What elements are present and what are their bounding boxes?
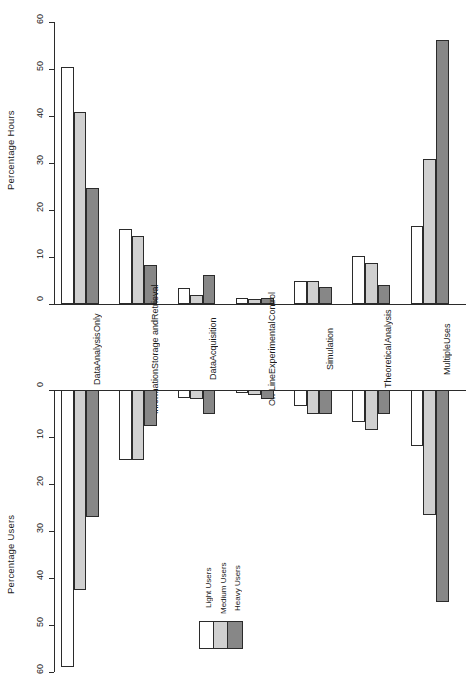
legend-swatch bbox=[214, 622, 228, 648]
bar bbox=[423, 159, 436, 304]
category-label-line: Control bbox=[266, 292, 277, 321]
category-label: MultipleUses bbox=[408, 312, 452, 386]
category-label-line: Data bbox=[208, 361, 219, 380]
y-axis-tick bbox=[49, 390, 54, 391]
bar bbox=[144, 390, 157, 426]
category-axis-baseline bbox=[54, 304, 466, 305]
category-label-line: Only bbox=[91, 313, 102, 332]
y-axis-tick-label: 60 bbox=[36, 14, 50, 24]
bar bbox=[132, 390, 145, 460]
y-axis-tick-label: 0 bbox=[36, 382, 50, 387]
bar bbox=[132, 236, 145, 304]
bar bbox=[307, 390, 320, 414]
bar bbox=[86, 188, 99, 304]
y-axis-tick-label: 50 bbox=[36, 61, 50, 71]
bar bbox=[319, 390, 332, 414]
y-axis-tick-label: 40 bbox=[36, 570, 50, 580]
y-axis-tick-label: 0 bbox=[36, 296, 50, 301]
bar bbox=[307, 281, 320, 304]
bar bbox=[74, 390, 87, 590]
y-axis-tick bbox=[49, 304, 54, 305]
y-axis-tick-label: 40 bbox=[36, 108, 50, 118]
bar bbox=[423, 390, 436, 515]
bar bbox=[248, 299, 261, 304]
bar bbox=[119, 229, 132, 304]
category-label-line: Retrieval bbox=[150, 284, 161, 320]
bar bbox=[236, 390, 249, 393]
category-label: InformationStorage andRetrieval bbox=[116, 312, 160, 386]
bar bbox=[411, 390, 424, 446]
bar bbox=[294, 281, 307, 304]
legend: Light UsersMedium UsersHeavy Users bbox=[195, 555, 295, 675]
bar bbox=[378, 285, 391, 304]
legend-label: Medium Users bbox=[214, 559, 228, 617]
bar bbox=[248, 390, 261, 395]
bar bbox=[74, 112, 87, 304]
category-label-line: Analysis bbox=[383, 310, 394, 344]
value-axis-spine bbox=[54, 22, 55, 304]
y-axis-tick-label: 60 bbox=[36, 664, 50, 674]
category-label-line: Theoretical bbox=[383, 343, 394, 388]
y-axis-tick-label: 30 bbox=[36, 523, 50, 533]
y-axis-tick-label: 50 bbox=[36, 617, 50, 627]
category-label: TheoreticalAnalysis bbox=[349, 312, 393, 386]
bar bbox=[365, 263, 378, 304]
bar bbox=[61, 390, 74, 667]
y-axis-title-users: Percentage Users bbox=[6, 470, 16, 594]
legend-swatch bbox=[200, 622, 214, 648]
y-axis-tick-label: 20 bbox=[36, 476, 50, 486]
y-axis-tick-label: 10 bbox=[36, 429, 50, 439]
bar bbox=[352, 256, 365, 304]
bar bbox=[178, 288, 191, 304]
y-axis-tick-label: 20 bbox=[36, 202, 50, 212]
category-label: DataAnalysisOnly bbox=[58, 312, 102, 386]
legend-label: Light Users bbox=[199, 559, 213, 617]
legend-swatch bbox=[228, 622, 242, 648]
category-label-line: Data bbox=[91, 366, 102, 385]
bar bbox=[203, 390, 216, 414]
bar bbox=[436, 390, 449, 602]
bar bbox=[261, 390, 274, 399]
category-label-line: Analysis bbox=[91, 332, 102, 366]
bar bbox=[319, 287, 332, 304]
category-label: On-LineExperimentalControl bbox=[233, 312, 277, 386]
bar bbox=[294, 390, 307, 406]
legend-swatch-box bbox=[199, 621, 243, 649]
y-axis-title-hours: Percentage Hours bbox=[6, 70, 16, 190]
bar bbox=[178, 390, 191, 398]
bar bbox=[411, 226, 424, 304]
legend-label: Heavy Users bbox=[228, 559, 242, 617]
y-axis-tick-label: 10 bbox=[36, 249, 50, 259]
bar bbox=[352, 390, 365, 422]
bar bbox=[436, 40, 449, 304]
category-label-line: Experimental bbox=[266, 321, 277, 374]
category-label-line: Uses bbox=[441, 323, 452, 344]
bar bbox=[86, 390, 99, 517]
category-label-line: Multiple bbox=[441, 344, 452, 375]
bar bbox=[190, 295, 203, 304]
bar bbox=[203, 275, 216, 304]
category-label: Simulation bbox=[291, 312, 335, 386]
category-label-line: Storage and bbox=[150, 320, 161, 369]
bar bbox=[190, 390, 203, 399]
bar bbox=[236, 298, 249, 304]
value-axis-spine bbox=[54, 390, 55, 672]
bar bbox=[119, 390, 132, 460]
y-axis-tick-label: 30 bbox=[36, 155, 50, 165]
category-label: DataAcquisition bbox=[174, 312, 218, 386]
bar bbox=[365, 390, 378, 430]
bar bbox=[61, 67, 74, 304]
category-label-line: Simulation bbox=[325, 328, 336, 370]
bar bbox=[378, 390, 391, 414]
category-label-line: Acquisition bbox=[208, 318, 219, 362]
figure: Percentage Hours 0102030405060 DataAnaly… bbox=[0, 0, 474, 691]
